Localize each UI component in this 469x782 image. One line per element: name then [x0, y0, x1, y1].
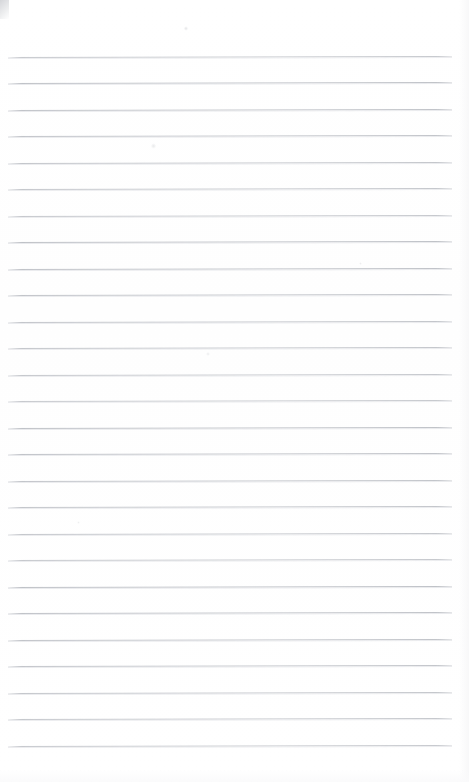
scanned-page — [0, 0, 469, 782]
handwriting-layer — [0, 0, 469, 782]
